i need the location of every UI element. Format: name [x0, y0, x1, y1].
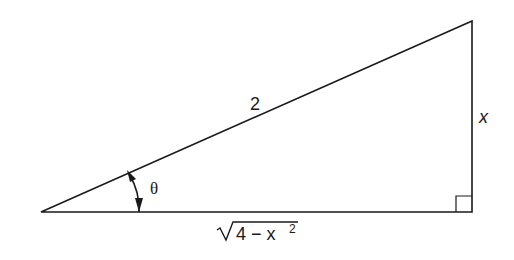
triangle-diagram: θ 2 x 4 − x 2	[0, 0, 514, 260]
opposite-label: x	[478, 107, 489, 127]
triangle	[41, 21, 472, 212]
right-angle-marker	[456, 196, 472, 212]
angle-label: θ	[150, 179, 158, 198]
svg-text:4 − x: 4 − x	[236, 224, 276, 244]
adjacent-label: 4 − x 2	[217, 222, 298, 244]
angle-arrow-icon	[127, 170, 143, 212]
hypotenuse-label: 2	[250, 94, 260, 114]
svg-text:2: 2	[289, 222, 296, 236]
